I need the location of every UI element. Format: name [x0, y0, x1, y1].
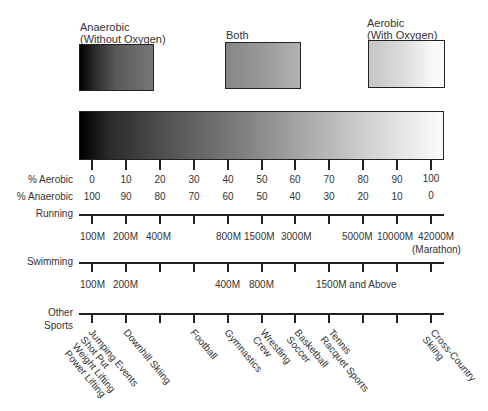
swimming-tick — [227, 262, 229, 272]
running-distance: 42000M — [418, 231, 454, 242]
legend-anaerobic-swatch — [79, 44, 154, 91]
swimming-tick — [362, 262, 364, 272]
swimming-tick — [294, 262, 296, 272]
swimming-tick — [396, 262, 398, 272]
other-sports-tick — [430, 313, 432, 323]
legend-aerobic-swatch — [368, 40, 445, 88]
anaerobic-value: 50 — [256, 191, 267, 202]
anaerobic-value: 100 — [84, 191, 101, 202]
running-tick — [227, 214, 229, 224]
swimming-distance: 800M — [249, 279, 274, 290]
scale-tick — [91, 160, 93, 170]
running-tick — [294, 214, 296, 224]
running-tick — [328, 214, 330, 224]
aerobic-value: 70 — [323, 174, 334, 185]
anaerobic-value: 20 — [357, 191, 368, 202]
aerobic-gradient-bar — [79, 111, 444, 160]
scale-tick — [396, 160, 398, 170]
anaerobic-value: 10 — [391, 191, 402, 202]
running-tick — [362, 214, 364, 224]
swimming-tick — [430, 262, 432, 272]
aerobic-value: 80 — [357, 174, 368, 185]
scale-tick — [159, 160, 161, 170]
anaerobic-value: 90 — [120, 191, 131, 202]
aerobic-value: 60 — [289, 174, 300, 185]
scale-tick — [227, 160, 229, 170]
running-label: Running — [36, 208, 73, 219]
other-sports-tick — [362, 313, 364, 323]
anaerobic-value: 0 — [428, 190, 434, 201]
legend-both-title: Both — [226, 29, 249, 42]
running-tick — [91, 214, 93, 224]
running-tick — [261, 214, 263, 224]
running-tick — [159, 214, 161, 224]
other-sports-tick — [91, 313, 93, 323]
swimming-distance: 200M — [113, 279, 138, 290]
percent-anaerobic-label: % Anaerobic — [17, 191, 73, 202]
other-sports-tick — [125, 313, 127, 323]
swimming-tick — [91, 262, 93, 272]
swimming-label: Swimming — [27, 256, 73, 267]
scale-tick — [362, 160, 364, 170]
running-distance: 200M — [113, 231, 138, 242]
other-sports-tick — [193, 313, 195, 323]
aerobic-value: 0 — [89, 174, 95, 185]
aerobic-value: 90 — [391, 174, 402, 185]
other-sports-tick — [261, 313, 263, 323]
running-distance: 100M — [80, 231, 105, 242]
legend-both-swatch — [225, 42, 301, 89]
running-distance: 3000M — [281, 231, 312, 242]
anaerobic-value: 80 — [154, 191, 165, 202]
other-sports-label-line1: Other — [48, 307, 73, 318]
aerobic-value: 30 — [188, 174, 199, 185]
percent-aerobic-label: % Aerobic — [28, 174, 73, 185]
other-sports-tick — [227, 313, 229, 323]
other-sports-tick — [294, 313, 296, 323]
swimming-tick — [328, 262, 330, 272]
sport-label: Football — [189, 327, 220, 361]
anaerobic-value: 70 — [188, 191, 199, 202]
swimming-tick — [125, 262, 127, 272]
swimming-distance: 1500M and Above — [316, 279, 397, 290]
swimming-tick — [159, 262, 161, 272]
other-sports-tick — [328, 313, 330, 323]
running-distance: 5000M — [342, 231, 373, 242]
aerobic-value: 40 — [222, 174, 233, 185]
aerobic-value: 50 — [256, 174, 267, 185]
running-tick — [125, 214, 127, 224]
swimming-tick — [193, 262, 195, 272]
scale-tick — [430, 160, 432, 170]
running-distance-note: (Marathon) — [412, 244, 461, 255]
running-distance: 10000M — [377, 231, 413, 242]
other-sports-tick — [396, 313, 398, 323]
swimming-distance: 100M — [80, 279, 105, 290]
scale-tick — [193, 160, 195, 170]
running-distance: 800M — [216, 231, 241, 242]
running-distance: 1500M — [244, 231, 275, 242]
other-sports-tick — [159, 313, 161, 323]
swimming-tick — [261, 262, 263, 272]
anaerobic-value: 60 — [222, 191, 233, 202]
scale-tick — [328, 160, 330, 170]
anaerobic-value: 40 — [289, 191, 300, 202]
swimming-distance: 400M — [215, 279, 240, 290]
running-tick — [430, 214, 432, 224]
scale-tick — [261, 160, 263, 170]
running-tick — [193, 214, 195, 224]
aerobic-value: 10 — [120, 174, 131, 185]
aerobic-value: 20 — [154, 174, 165, 185]
scale-tick — [125, 160, 127, 170]
aerobic-value: 100 — [423, 173, 440, 184]
scale-tick — [294, 160, 296, 170]
running-distance: 400M — [146, 231, 171, 242]
running-tick — [396, 214, 398, 224]
other-sports-label-line2: Sports — [44, 320, 73, 331]
anaerobic-value: 30 — [323, 191, 334, 202]
